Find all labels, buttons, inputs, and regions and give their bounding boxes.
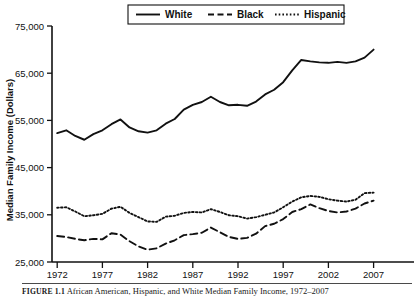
legend-label-white: White — [165, 9, 193, 20]
x-tick-label-1972: 1972 — [47, 269, 68, 280]
y-tick-label-45000: 45,000 — [15, 162, 44, 173]
series-line-hispanic — [57, 193, 373, 222]
x-tick-label-2002: 2002 — [318, 269, 339, 280]
y-axis: 75,000 65,000 55,000 45,000 35,000 25,00… — [15, 21, 52, 268]
legend-label-hispanic: Hispanic — [304, 9, 346, 20]
x-tick-label-1977: 1977 — [92, 269, 113, 280]
y-axis-title: Median Family Income (Dollars) — [4, 79, 15, 222]
figure-container: White Black Hispanic Median Family Incom… — [0, 0, 420, 297]
x-axis: 1972 1977 1982 1987 1992 1997 2002 2007 — [47, 262, 414, 280]
series-line-white — [57, 50, 373, 140]
x-tick-label-1982: 1982 — [137, 269, 158, 280]
legend: White Black Hispanic — [128, 5, 346, 24]
figure-caption: FIGURE 1.1 African American, Hispanic, a… — [22, 286, 418, 297]
x-tick-label-2007: 2007 — [363, 269, 384, 280]
caption-label: FIGURE 1.1 — [22, 287, 65, 296]
y-tick-label-55000: 55,000 — [15, 115, 44, 126]
y-tick-label-75000: 75,000 — [15, 21, 44, 32]
x-tick-label-1987: 1987 — [182, 269, 203, 280]
legend-label-black: Black — [237, 9, 264, 20]
plot-series — [57, 50, 373, 250]
x-tick-label-1997: 1997 — [273, 269, 294, 280]
income-line-chart: White Black Hispanic Median Family Incom… — [0, 0, 420, 280]
series-line-black — [57, 201, 373, 250]
x-tick-label-1992: 1992 — [227, 269, 248, 280]
y-tick-label-35000: 35,000 — [15, 209, 44, 220]
caption-body: African American, Hispanic, and White Me… — [67, 286, 329, 296]
caption-rule — [22, 283, 412, 284]
y-tick-label-65000: 65,000 — [15, 68, 44, 79]
y-tick-label-25000: 25,000 — [15, 257, 44, 268]
